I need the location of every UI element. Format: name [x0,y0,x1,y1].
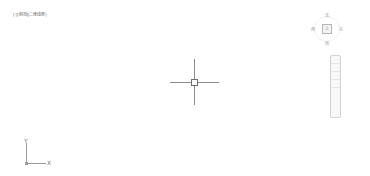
compass-north[interactable]: 北 [323,13,331,18]
compass-east[interactable]: 东 [337,27,345,32]
navigation-bar[interactable] [330,55,341,118]
ucs-y-label: Y [24,138,28,144]
crosshair-cursor [170,59,219,105]
compass-west[interactable]: 西 [309,27,317,32]
visual-style-control[interactable]: [二维线框] [28,12,47,17]
view-control[interactable]: [俯视] [17,12,28,17]
ucs-x-label: X [47,160,51,166]
viewcube-top-face[interactable]: 上 [322,24,332,34]
ucs-icon: Y X [20,136,54,168]
zoom-extents-button[interactable] [331,72,340,80]
drawing-canvas[interactable]: [-][俯视][二维线框] 北 南 西 东 上 Y X [0,0,370,176]
crosshair-icon [170,59,219,105]
showmotion-button[interactable] [331,88,340,96]
orbit-button[interactable] [331,80,340,88]
pan-button[interactable] [331,64,340,72]
viewcube[interactable]: 北 南 西 东 上 [308,10,348,50]
steering-wheel-button[interactable] [331,56,340,64]
viewport-controls: [-][俯视][二维线框] [13,12,47,18]
compass-south[interactable]: 南 [323,41,331,46]
